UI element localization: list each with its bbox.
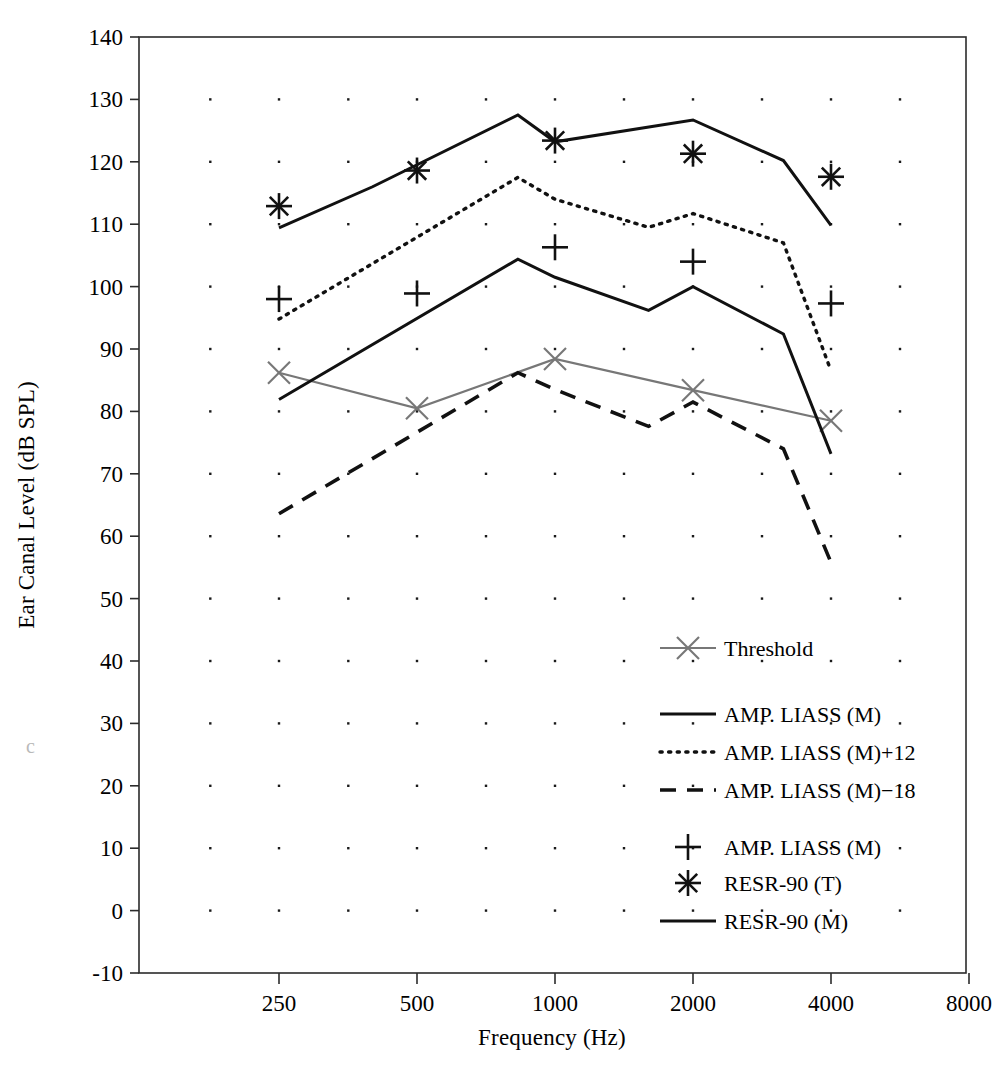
grid-dot xyxy=(416,909,418,911)
chart-figure: -100102030405060708090100110120130140 25… xyxy=(0,0,1000,1085)
grid-dot xyxy=(278,660,280,662)
grid-dot xyxy=(278,909,280,911)
grid-dot xyxy=(692,535,694,537)
grid-dot xyxy=(209,223,211,225)
grid-dot xyxy=(209,660,211,662)
grid-dot xyxy=(554,909,556,911)
grid-dot xyxy=(347,285,349,287)
grid-dot xyxy=(416,223,418,225)
grid-dot xyxy=(692,348,694,350)
grid-dot xyxy=(416,785,418,787)
grid-dot xyxy=(209,597,211,599)
page-artifact-mark: c xyxy=(26,735,35,758)
grid-dot xyxy=(209,348,211,350)
grid-dot xyxy=(899,660,901,662)
grid-dot xyxy=(485,722,487,724)
grid-dot xyxy=(899,161,901,163)
grid-dot xyxy=(830,535,832,537)
grid-dot xyxy=(347,161,349,163)
grid-dot xyxy=(692,785,694,787)
grid-dot xyxy=(416,722,418,724)
grid-dot xyxy=(899,223,901,225)
grid-dot xyxy=(761,410,763,412)
grid-dot xyxy=(830,348,832,350)
grid-dot xyxy=(623,722,625,724)
grid-dot xyxy=(623,909,625,911)
grid-dot xyxy=(278,847,280,849)
grid-dot xyxy=(278,161,280,163)
grid-dot xyxy=(485,98,487,100)
grid-dot xyxy=(623,660,625,662)
y-tick-label: 110 xyxy=(89,212,123,237)
y-tick-label: 80 xyxy=(100,399,123,424)
grid-dot xyxy=(830,285,832,287)
grid-dot xyxy=(209,285,211,287)
x-tick-label: 8000 xyxy=(946,991,992,1016)
y-tick-label: 50 xyxy=(100,587,123,612)
grid-dot xyxy=(416,98,418,100)
grid-dot xyxy=(485,410,487,412)
grid-dot xyxy=(692,597,694,599)
legend-label: AMP. LIASS (M)−18 xyxy=(724,778,916,803)
grid-dot xyxy=(209,847,211,849)
grid-dot xyxy=(347,410,349,412)
y-axis: -100102030405060708090100110120130140 xyxy=(89,25,140,986)
y-tick-label: 120 xyxy=(89,150,124,175)
grid-dot xyxy=(623,161,625,163)
grid-dot xyxy=(761,223,763,225)
grid-dot xyxy=(692,660,694,662)
y-tick-label: 140 xyxy=(89,25,124,50)
legend-label: RESR-90 (T) xyxy=(724,871,842,896)
grid-dot xyxy=(623,285,625,287)
grid-dot xyxy=(554,847,556,849)
grid-dot xyxy=(347,847,349,849)
grid-dot xyxy=(623,223,625,225)
grid-dot xyxy=(347,722,349,724)
grid-dot xyxy=(830,161,832,163)
grid-dot xyxy=(209,410,211,412)
grid-dot xyxy=(761,597,763,599)
x-axis: 2505001000200040008000 xyxy=(262,973,992,1016)
grid-dot xyxy=(485,223,487,225)
grid-dot xyxy=(554,597,556,599)
grid-dot xyxy=(416,597,418,599)
grid-dot xyxy=(899,98,901,100)
grid-dot xyxy=(209,722,211,724)
grid-dot xyxy=(554,348,556,350)
grid-dot xyxy=(485,161,487,163)
grid-dot xyxy=(761,161,763,163)
y-tick-label: 0 xyxy=(112,899,124,924)
grid-dot xyxy=(830,660,832,662)
grid-dot xyxy=(830,597,832,599)
grid-dot xyxy=(554,535,556,537)
grid-dot xyxy=(692,223,694,225)
grid-dot xyxy=(623,597,625,599)
grid-dot xyxy=(278,410,280,412)
grid-dot xyxy=(692,410,694,412)
x-axis-title: Frequency (Hz) xyxy=(478,1025,626,1050)
grid-dot xyxy=(899,473,901,475)
grid-dot xyxy=(347,785,349,787)
grid-dot xyxy=(761,98,763,100)
grid-dot xyxy=(416,660,418,662)
grid-dot xyxy=(899,410,901,412)
grid-dot xyxy=(761,285,763,287)
grid-dot xyxy=(830,98,832,100)
grid-dot xyxy=(761,348,763,350)
grid-dot xyxy=(830,473,832,475)
grid-dot xyxy=(209,98,211,100)
grid-dot xyxy=(347,98,349,100)
x-tick-label: 1000 xyxy=(532,991,578,1016)
grid-dot xyxy=(623,847,625,849)
grid-dot xyxy=(761,473,763,475)
grid-dot xyxy=(623,473,625,475)
y-tick-label: 10 xyxy=(100,836,123,861)
y-tick-label: 100 xyxy=(89,275,124,300)
grid-dot xyxy=(899,597,901,599)
legend-label: AMP. LIASS (M)+12 xyxy=(724,740,916,765)
y-tick-label: 30 xyxy=(100,711,123,736)
grid-dot xyxy=(416,473,418,475)
legend-label: AMP. LIASS (M) xyxy=(724,702,881,727)
grid-dot xyxy=(278,535,280,537)
x-tick-label: 4000 xyxy=(808,991,854,1016)
